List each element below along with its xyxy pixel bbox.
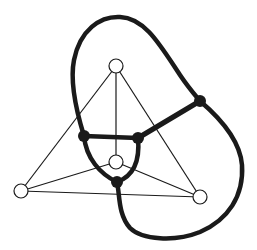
primal-vertices [14,59,207,204]
dual-edge-left-mid [84,136,138,138]
dual-vertex-mid [132,132,144,144]
primal-vertex-left [14,184,28,198]
primal-edge-left-center [21,162,116,191]
primal-vertex-center [109,155,123,169]
dual-edges [73,17,242,238]
dual-edge-mid-outer [138,101,200,138]
dual-graph-diagram [0,0,257,250]
dual-vertex-bottom [111,176,123,188]
dual-vertex-outer [194,95,206,107]
primal-vertex-top [109,59,123,73]
dual-edge-left-outer-arc [73,17,200,136]
diagram-svg [0,0,257,250]
primal-edge-right-center [116,162,200,197]
primal-vertex-right [193,190,207,204]
dual-vertex-left [78,130,90,142]
primal-edge-left-right [21,191,200,197]
